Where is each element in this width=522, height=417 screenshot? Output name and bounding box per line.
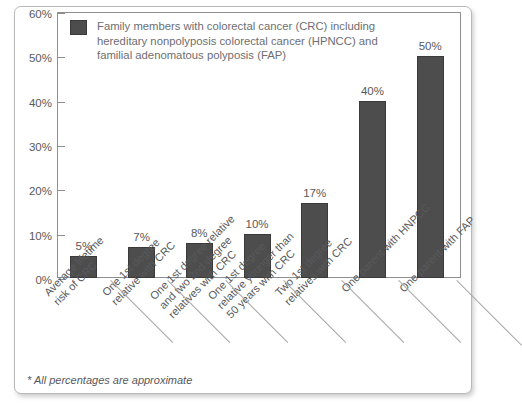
y-axis-tick-label: 20% [29,183,52,199]
legend-line-2: familial adenomatous polyposis (FAP) [97,48,378,63]
y-axis-tick-label: 30% [29,139,52,155]
bar-value-label: 10% [231,217,283,231]
bar-value-label: 40% [346,84,398,98]
bar [70,256,97,278]
chart-legend: Family members with colorectal cancer (C… [70,19,378,63]
bar-value-label: 7% [116,230,168,244]
y-axis-tick-label: 50% [29,50,52,66]
legend-line-1: hereditary nonpolyposis colorectal cance… [97,34,378,49]
y-axis-tick: 0% [58,279,65,280]
chart-footnote: * All percentages are approximate [27,374,192,386]
legend-label-crc: Family members with colorectal cancer (C… [97,19,378,63]
bar-value-label: 17% [289,186,341,200]
bar [244,234,271,278]
bar [301,203,328,278]
bar [359,101,386,278]
bar [186,243,213,278]
bar [417,56,444,278]
y-axis-tick-label: 60% [29,6,52,22]
bar [128,247,155,278]
y-axis-tick-label: 0% [35,272,52,288]
y-axis-tick-label: 10% [29,228,52,244]
bar-value-label: 8% [173,226,225,240]
bar-value-label: 50% [404,39,456,53]
legend-line-0: Family members with colorectal cancer (C… [97,19,378,34]
y-axis-tick-label: 40% [29,95,52,111]
legend-swatch-crc [70,20,87,35]
bar-value-label: 5% [58,239,110,253]
